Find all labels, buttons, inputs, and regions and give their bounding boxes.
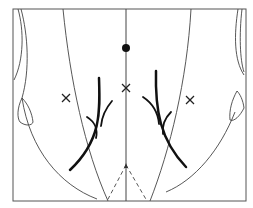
- left-lower-arc: [22, 98, 97, 199]
- left-outer-contour-1: [14, 9, 22, 80]
- anatomical-diagram: [0, 0, 253, 208]
- left-branch-upper: [101, 101, 112, 126]
- right-lower-arc: [166, 112, 235, 192]
- left-outer-contour-2: [21, 9, 27, 98]
- right-outer-contour-2: [240, 9, 244, 72]
- dot-marker: [122, 44, 130, 52]
- left-lobe: [18, 98, 33, 125]
- diagram-frame: [13, 9, 246, 201]
- right-outer-contour-1: [236, 9, 244, 75]
- left-cross-marker: [62, 94, 70, 102]
- left-dashed-line: [107, 165, 126, 201]
- right-cross-marker: [186, 96, 194, 104]
- right-lobe: [230, 91, 244, 120]
- right-dashed-line: [126, 165, 147, 201]
- left-inner-curve: [63, 9, 108, 201]
- midline-tip: [124, 163, 128, 168]
